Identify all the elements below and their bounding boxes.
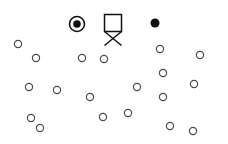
ringed-dot-marker <box>70 17 85 32</box>
open-circle-marker <box>196 51 203 58</box>
chair-marker <box>105 15 122 46</box>
open-circle-marker <box>100 55 107 62</box>
filled-dot-marker <box>151 19 160 28</box>
open-circle-marker <box>25 83 32 90</box>
open-circle-marker <box>133 83 140 90</box>
point-distribution-diagram <box>0 0 228 144</box>
ringed-dot-center <box>73 20 81 28</box>
open-circle-marker <box>156 45 163 52</box>
open-circle-marker <box>14 40 21 47</box>
open-circle-marker <box>99 113 106 120</box>
open-circle-marker <box>78 54 85 61</box>
chair-marker-square <box>105 15 122 32</box>
open-circle-marker <box>53 86 60 93</box>
open-circle-marker <box>86 93 93 100</box>
open-circle-markers <box>14 40 203 134</box>
open-circle-marker <box>124 109 131 116</box>
open-circle-marker <box>36 124 43 131</box>
filled-dot-marker <box>151 19 160 28</box>
open-circle-marker <box>32 54 39 61</box>
open-circle-marker <box>159 69 166 76</box>
open-circle-marker <box>27 114 34 121</box>
open-circle-marker <box>166 122 173 129</box>
open-circle-marker <box>190 80 197 87</box>
marker-layer <box>0 0 228 144</box>
open-circle-marker <box>189 127 196 134</box>
open-circle-marker <box>159 93 166 100</box>
